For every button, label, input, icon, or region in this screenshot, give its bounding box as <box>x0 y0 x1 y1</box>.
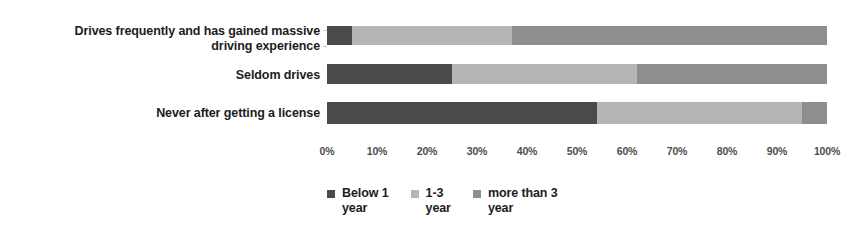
bar-segment <box>327 64 452 84</box>
bar-row <box>327 64 827 84</box>
x-axis-tick-label: 10% <box>367 145 387 157</box>
category-label-seldom-drives: Seldom drives <box>8 68 320 83</box>
plot-area <box>327 16 827 138</box>
legend-swatch-icon <box>411 190 419 198</box>
x-axis-tick-label: 90% <box>767 145 787 157</box>
x-axis-tick-label: 20% <box>417 145 437 157</box>
x-axis-tick-labels: 0%10%20%30%40%50%60%70%80%90%100% <box>327 145 827 161</box>
legend-label: Below 1 year <box>342 186 389 216</box>
bar-row <box>327 102 827 124</box>
legend-swatch-icon <box>473 190 481 198</box>
category-label-line-1: Drives frequently and has gained massive <box>75 24 320 38</box>
bar-segment <box>327 26 352 45</box>
bar-row <box>327 26 827 45</box>
category-label-drives-frequently: Drives frequently and has gained massive… <box>8 24 320 54</box>
x-axis-tick-label: 40% <box>517 145 537 157</box>
bar-segment <box>637 64 827 84</box>
chart-legend: Below 1 year1-3 yearmore than 3 year <box>327 186 657 230</box>
x-axis-tick-label: 80% <box>717 145 737 157</box>
x-axis-tick-label: 30% <box>467 145 487 157</box>
x-axis-tick-label: 50% <box>567 145 587 157</box>
bar-segment <box>597 102 802 124</box>
category-label-never-after-license: Never after getting a license <box>8 106 320 121</box>
legend-label: 1-3 year <box>426 186 451 216</box>
legend-item[interactable]: Below 1 year <box>327 186 389 216</box>
category-label-line-2: driving experience <box>211 39 320 53</box>
bar-segment <box>452 64 637 84</box>
legend-item[interactable]: 1-3 year <box>411 186 451 216</box>
x-axis-tick-label: 100% <box>814 145 840 157</box>
stacked-bar-chart: Drives frequently and has gained massive… <box>0 0 868 242</box>
legend-item[interactable]: more than 3 year <box>473 186 558 216</box>
category-axis-labels: Drives frequently and has gained massive… <box>8 16 320 128</box>
legend-label: more than 3 year <box>488 186 558 216</box>
axis-tick-mark <box>323 46 327 47</box>
bar-segment <box>512 26 827 45</box>
x-axis-tick-label: 0% <box>320 145 335 157</box>
legend-swatch-icon <box>327 190 335 198</box>
x-axis-tick-label: 70% <box>667 145 687 157</box>
bar-segment <box>352 26 512 45</box>
bar-segment <box>802 102 827 124</box>
bar-segment <box>327 102 597 124</box>
x-axis-tick-label: 60% <box>617 145 637 157</box>
